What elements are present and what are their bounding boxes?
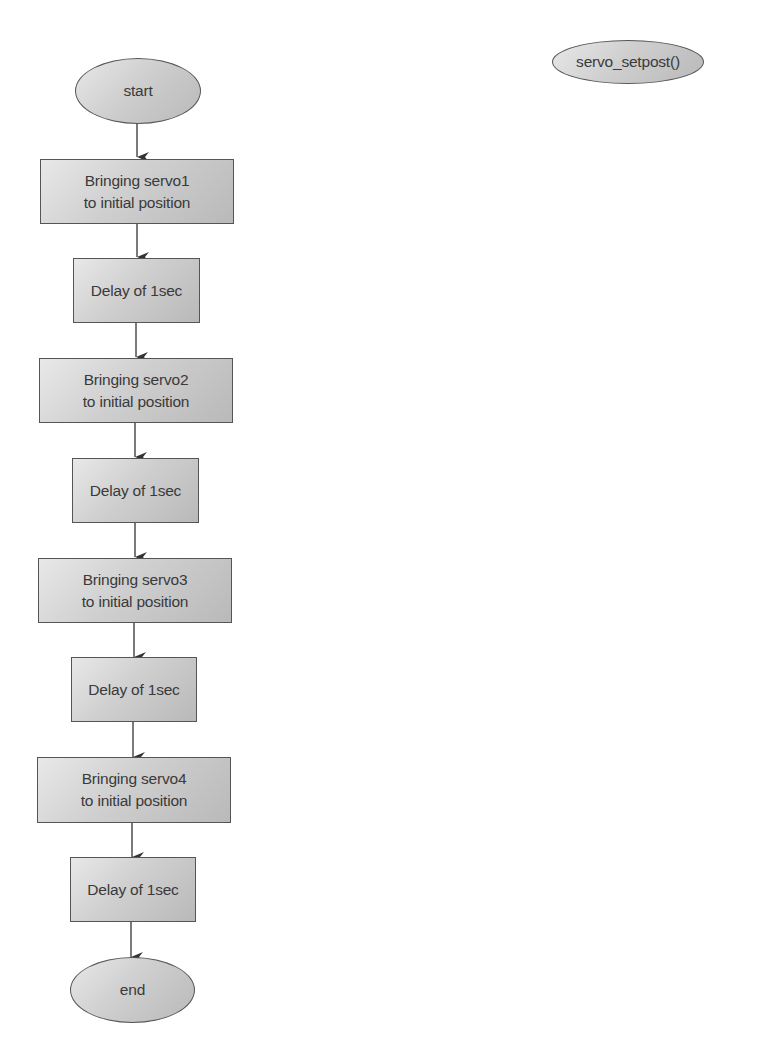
function-name-label: servo_setpost() (576, 51, 680, 73)
process-label: Bringing servo1 to initial position (84, 170, 191, 214)
process-label: Delay of 1sec (87, 879, 178, 901)
function-name-terminator: servo_setpost() (552, 40, 704, 84)
start-label: start (123, 80, 152, 102)
process-bring-servo4: Bringing servo4 to initial position (37, 757, 231, 823)
process-label: Delay of 1sec (90, 480, 181, 502)
process-delay-1: Delay of 1sec (73, 258, 200, 323)
end-terminator: end (70, 957, 195, 1023)
flowchart-canvas: servo_setpost() start Bringing servo1 to… (0, 0, 760, 1047)
end-label: end (120, 979, 145, 1001)
process-label: Bringing servo2 to initial position (83, 369, 190, 413)
process-bring-servo2: Bringing servo2 to initial position (39, 358, 233, 423)
process-delay-3: Delay of 1sec (71, 657, 197, 722)
process-delay-4: Delay of 1sec (70, 857, 196, 922)
process-label: Bringing servo3 to initial position (82, 569, 189, 613)
process-bring-servo1: Bringing servo1 to initial position (40, 159, 234, 224)
process-delay-2: Delay of 1sec (72, 458, 199, 523)
process-label: Delay of 1sec (88, 679, 179, 701)
process-label: Delay of 1sec (91, 280, 182, 302)
process-bring-servo3: Bringing servo3 to initial position (38, 558, 232, 623)
process-label: Bringing servo4 to initial position (81, 768, 188, 812)
start-terminator: start (75, 58, 201, 124)
